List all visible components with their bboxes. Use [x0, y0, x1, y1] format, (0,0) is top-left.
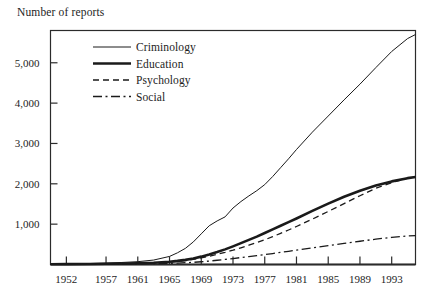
y-tick-label: 1,000 [0, 218, 40, 230]
x-tick-label: 1977 [254, 273, 276, 285]
x-tick-label: 1965 [159, 273, 181, 285]
x-tick-label: 1973 [222, 273, 244, 285]
x-tick-label: 1952 [55, 273, 77, 285]
plot-frame [51, 31, 416, 265]
y-tick-label: 3,000 [0, 137, 40, 149]
line-chart-plot [0, 0, 448, 298]
x-tick-label: 1985 [317, 273, 339, 285]
legend-label-education: Education [136, 58, 184, 70]
series-line-education [51, 177, 416, 264]
x-tick-label: 1961 [127, 273, 149, 285]
chart-figure: Number of reports 1,0002,0003,0004,0005,… [0, 0, 448, 298]
x-tick-label: 1957 [95, 273, 117, 285]
x-tick-label: 1969 [190, 273, 212, 285]
legend-swatches [93, 47, 131, 97]
series-line-criminology [51, 35, 416, 265]
data-series-group [51, 35, 416, 265]
legend-label-criminology: Criminology [136, 41, 196, 53]
y-tick-label: 5,000 [0, 57, 40, 69]
x-tick-label: 1993 [381, 273, 403, 285]
x-tick-label: 1989 [349, 273, 371, 285]
legend-label-social: Social [136, 91, 165, 103]
y-tick-label: 2,000 [0, 178, 40, 190]
x-tick-label: 1981 [285, 273, 307, 285]
y-axis-ticks [51, 63, 58, 224]
legend-label-psychology: Psychology [136, 74, 191, 86]
y-tick-label: 4,000 [0, 97, 40, 109]
